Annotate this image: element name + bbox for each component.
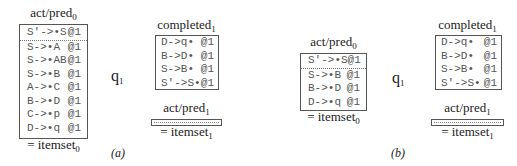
item-text: B->•D [308,82,341,96]
item-row: S->•B@1 [20,68,87,82]
actpred0-title-a: act/pred0 [19,6,88,20]
item-text: B->D• [441,50,474,64]
item-text: C->•p [27,108,60,122]
item-origin: @1 [484,77,497,91]
item-text: A->•C [27,81,60,95]
footer-sub: 0 [75,144,80,154]
item-row: B->•D@1 [301,82,366,96]
itemset0-box-b: S′->•S@1 S->•B@1 B->•D@1 D->•q@1 [300,53,367,111]
actpred1-title-b: act/pred1 [431,101,504,115]
item-origin: @1 [201,50,214,64]
caption-a: (a) [111,146,125,161]
item-row: S′->•S@1 [20,26,87,41]
item-origin: @1 [201,63,214,77]
title-sub: 1 [211,24,216,34]
item-row: D->•q@1 [301,96,366,110]
item-row: S->•A@1 [20,41,87,55]
footer-text: = itemset [441,124,489,139]
item-row: D->q•@1 [156,36,218,50]
footer-text: = itemset [27,137,75,152]
item-origin: @1 [484,63,497,77]
title-text: completed [438,17,492,32]
itemset0-footer-a: = itemset0 [19,138,88,152]
itemset0-box-a: S′->•S@1 S->•A@1 S->•AB@1 S->•B@1 A->•C@… [19,24,88,139]
item-origin: @1 [68,81,81,95]
footer-text: = itemset [307,109,355,124]
item-row: C->•p@1 [20,108,87,122]
actpred0-title-b: act/pred0 [300,35,367,49]
item-text: S->B• [161,63,194,77]
footer-text: = itemset [160,124,208,139]
item-origin: @1 [68,108,81,122]
symbol-text: q [111,67,119,84]
item-text: B->D• [161,50,194,64]
item-row: A->•C@1 [20,81,87,95]
item-text: D->•q [27,122,60,136]
item-text: S->•AB [27,54,67,68]
completed1-box-a: D->q•@1 B->D•@1 S->B•@1 S′->S•@1 [155,35,219,90]
item-origin: @1 [201,77,214,91]
footer-sub: 1 [489,131,494,141]
title-text: act/pred [310,34,352,49]
item-origin: @1 [484,50,497,64]
completed1-box-b: D->q•@1 B->D•@1 S->B•@1 S′->S•@1 [435,35,502,90]
item-row: S′->S•@1 [156,77,218,91]
title-text: act/pred [163,100,205,115]
item-row: B->•D@1 [20,95,87,109]
item-text: S′->S• [441,77,481,91]
footer-sub: 1 [208,131,213,141]
item-row: S->•AB@1 [20,54,87,68]
item-row: S->•B@1 [301,69,366,83]
item-text: S->•B [308,69,341,83]
item-origin: @1 [347,96,360,110]
title-sub: 0 [72,12,77,22]
title-text: completed [157,17,211,32]
title-sub: 1 [492,24,497,34]
item-row: S′->S•@1 [436,77,501,91]
item-text: S->•B [27,68,60,82]
item-text: B->•D [27,95,60,109]
transition-symbol-b: q1 [392,70,405,86]
itemset0-footer-b: = itemset0 [300,110,367,124]
title-sub: 0 [352,41,357,51]
title-text: act/pred [30,5,72,20]
item-origin: @1 [68,26,81,40]
item-text: D->q• [441,36,474,50]
title-sub: 1 [205,107,210,117]
caption-b: (b) [391,146,405,161]
itemset1-footer-a: = itemset1 [151,125,222,139]
completed1-title-a: completed1 [152,18,221,32]
footer-sub: 0 [355,116,360,126]
item-text: S->•A [27,41,60,55]
item-text: D->q• [161,36,194,50]
item-origin: @1 [68,54,81,68]
item-origin: @1 [484,36,497,50]
item-row: S′->•S@1 [301,54,366,69]
item-origin: @1 [68,68,81,82]
item-row: B->D•@1 [156,50,218,64]
item-text: S′->•S [308,54,348,68]
item-origin: @1 [68,122,81,136]
item-origin: @1 [201,36,214,50]
actpred1-title-a: act/pred1 [151,101,222,115]
item-text: S->B• [441,63,474,77]
item-row: S->B•@1 [156,63,218,77]
item-origin: @1 [347,82,360,96]
item-row: S->B•@1 [436,63,501,77]
item-row: B->D•@1 [436,50,501,64]
completed1-title-b: completed1 [433,18,502,32]
item-text: S′->•S [27,26,67,40]
item-origin: @1 [347,69,360,83]
title-text: act/pred [444,100,486,115]
item-text: D->•q [308,96,341,110]
item-text: S′->S• [161,77,201,91]
item-origin: @1 [68,95,81,109]
item-origin: @1 [348,54,361,68]
symbol-text: q [392,69,400,86]
itemset1-footer-b: = itemset1 [431,125,504,139]
item-row: D->q•@1 [436,36,501,50]
item-origin: @1 [68,41,81,55]
transition-symbol-a: q1 [111,68,124,84]
title-sub: 1 [486,107,491,117]
symbol-sub: 1 [119,76,124,86]
